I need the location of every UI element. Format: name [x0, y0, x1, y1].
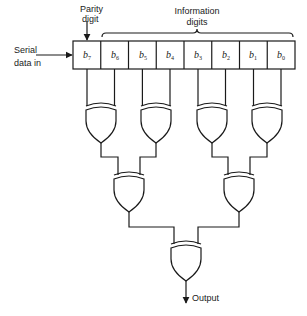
parity-label-line1: Parity [80, 4, 104, 14]
level3-input-wires [129, 212, 239, 244]
information-brace [102, 29, 293, 37]
level1-input-wires [87, 69, 281, 106]
level2-input-wires [101, 143, 267, 175]
xor-gate-l2-2 [224, 172, 254, 212]
serial-label-line2: data in [14, 58, 41, 68]
parity-label-line2: digit [82, 14, 99, 24]
parity-diagram: Parity digit Information digits Serial d… [0, 0, 307, 316]
xor-gate-l1-4 [252, 103, 282, 143]
shift-register [73, 41, 295, 69]
xor-gate-l3 [171, 241, 201, 281]
xor-gate-l1-1 [86, 103, 116, 143]
xor-gate-l1-3 [197, 103, 227, 143]
serial-label-line1: Serial [14, 45, 37, 55]
info-label-line1: Information [174, 6, 219, 16]
xor-gate-l1-2 [141, 103, 171, 143]
output-label: Output [192, 293, 220, 303]
info-label-line2: digits [186, 17, 208, 27]
xor-gate-l2-1 [114, 172, 144, 212]
